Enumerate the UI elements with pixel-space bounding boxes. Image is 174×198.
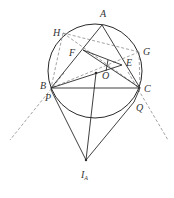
geometry-figure: A H G F E O B C P Q IA [0,0,174,198]
label-f: F [68,47,76,58]
label-b: B [40,80,46,91]
label-a: A [99,8,107,19]
segment-o-ia [86,73,96,160]
segment-ia-q [86,102,134,160]
label-p: P [44,92,51,103]
dashed-line-hb [51,33,63,88]
dashed-line-left-external [10,73,64,140]
label-c: C [144,83,151,94]
label-h: H [52,27,61,38]
label-g: G [143,46,150,57]
label-ia: IA [80,169,88,181]
point-ia [85,159,87,161]
label-ia-sub: A [83,175,88,181]
label-q: Q [136,102,144,113]
label-o: O [102,70,109,81]
label-e: E [125,57,132,68]
point-o [95,72,98,75]
segment-cf [83,50,140,88]
segment-ia-p [52,92,86,160]
